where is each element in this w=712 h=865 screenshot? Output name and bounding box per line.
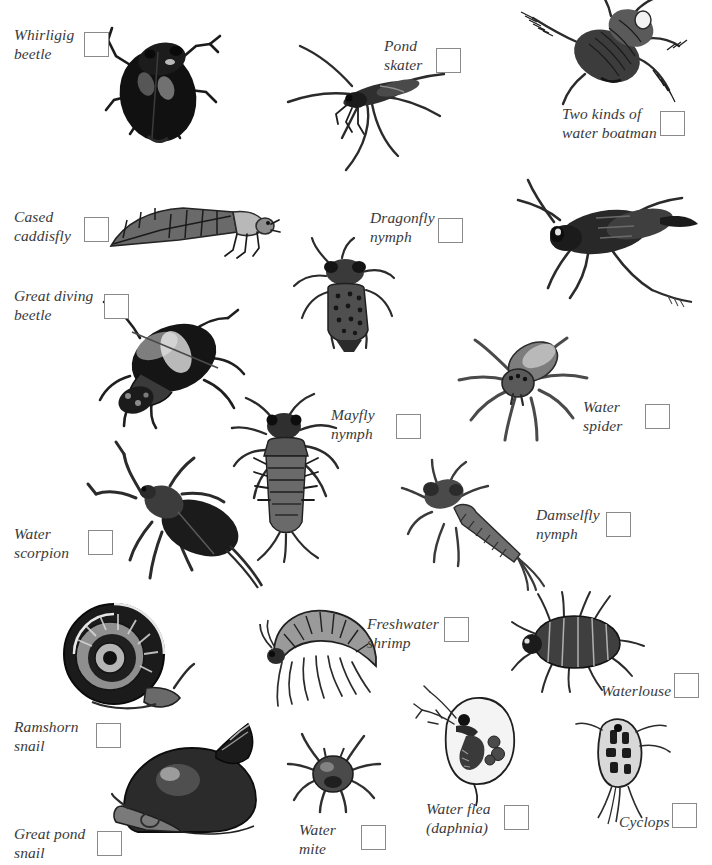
label-pond-skater: Pond skater [384, 36, 422, 74]
damselfly-nymph-illustration [402, 458, 547, 590]
water-boatman-illustration [515, 0, 700, 111]
cased-caddisfly-illustration [105, 198, 280, 266]
checkbox-water-boatman[interactable] [660, 111, 685, 136]
checkbox-water-scorpion[interactable] [88, 530, 113, 555]
label-water-boatman: Two kinds of water boatman [562, 104, 657, 142]
label-mayfly-nymph: Mayfly nymph [331, 405, 375, 443]
water-flea-illustration [412, 686, 532, 806]
cyclops-illustration [566, 714, 671, 826]
checkbox-damselfly-nymph[interactable] [606, 512, 631, 537]
checkbox-freshwater-shrimp[interactable] [444, 617, 469, 642]
label-cyclops: Cyclops [619, 812, 670, 831]
label-dragonfly-nymph: Dragonfly nymph [370, 208, 435, 246]
label-water-flea: Water flea (daphnia) [426, 799, 491, 837]
label-water-scorpion: Water scorpion [14, 524, 69, 562]
checkbox-whirligig-beetle[interactable] [84, 32, 109, 57]
label-freshwater-shrimp: Freshwater shrimp [367, 614, 439, 652]
label-water-spider: Water spider [583, 397, 622, 435]
checkbox-pond-skater[interactable] [436, 48, 461, 73]
water-scorpion-illustration [82, 436, 267, 588]
checkbox-dragonfly-nymph[interactable] [438, 218, 463, 243]
waterlouse-illustration [508, 592, 648, 694]
pond-skater-illustration [280, 42, 455, 177]
water-spider-illustration [455, 326, 590, 444]
whirligig-beetle-illustration [98, 18, 238, 153]
checkbox-water-spider[interactable] [645, 404, 670, 429]
checkbox-cyclops[interactable] [672, 803, 697, 828]
pond-life-identification-chart: Whirligig beetlePond skaterTwo kinds of … [0, 0, 712, 865]
label-water-mite: Water mite [299, 820, 336, 858]
checkbox-water-mite[interactable] [361, 825, 386, 850]
label-ramshorn-snail: Ramshorn snail [14, 717, 79, 755]
checkbox-great-diving-beetle[interactable] [104, 294, 129, 319]
label-damselfly-nymph: Damselfly nymph [536, 505, 600, 543]
dragonfly-nymph-illustration [292, 236, 407, 354]
ramshorn-snail-illustration [52, 602, 202, 722]
great-pond-snail-illustration [112, 722, 272, 840]
checkbox-mayfly-nymph[interactable] [396, 414, 421, 439]
water-mite-illustration [288, 730, 383, 812]
label-great-pond-snail: Great pond snail [14, 824, 85, 862]
checkbox-cased-caddisfly[interactable] [84, 217, 109, 242]
label-whirligig-beetle: Whirligig beetle [14, 25, 74, 63]
checkbox-great-pond-snail[interactable] [97, 831, 122, 856]
water-boatman-2-illustration [500, 176, 700, 311]
checkbox-waterlouse[interactable] [674, 673, 699, 698]
label-cased-caddisfly: Cased caddisfly [14, 207, 71, 245]
checkbox-ramshorn-snail[interactable] [96, 723, 121, 748]
checkbox-water-flea[interactable] [504, 805, 529, 830]
label-waterlouse: Waterlouse [601, 681, 671, 700]
label-great-diving-beetle: Great diving beetle [14, 286, 93, 324]
